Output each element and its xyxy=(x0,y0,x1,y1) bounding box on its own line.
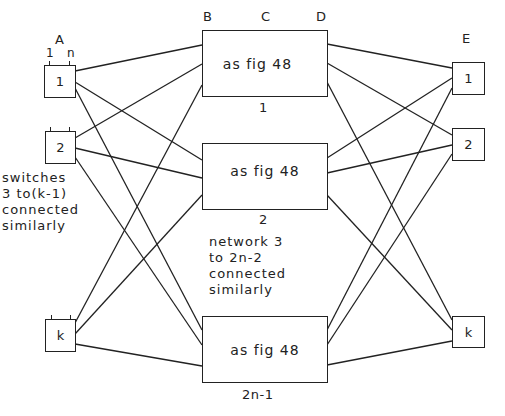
switch-label: 2 xyxy=(56,140,64,155)
left-note: switches 3 to(k-1) connected similarly xyxy=(2,170,79,234)
note-line: similarly xyxy=(209,282,273,297)
network-caption-1: 1 xyxy=(259,100,268,115)
network-text: as fig 48 xyxy=(230,163,299,179)
left-switch-1: 1 xyxy=(44,65,76,98)
note-line: 3 to(k-1) xyxy=(2,186,67,201)
note-line: connected xyxy=(2,202,79,217)
middle-note: network 3 to 2n-2 connected similarly xyxy=(209,234,286,298)
middle-network-2: as fig 48 xyxy=(202,143,328,210)
middle-network-2n-1: as fig 48 xyxy=(202,316,328,383)
stage-label-d: D xyxy=(316,9,327,24)
stage-label-e: E xyxy=(462,31,471,46)
note-line: switches xyxy=(2,170,66,185)
switch-label: k xyxy=(57,328,65,343)
network-text: as fig 48 xyxy=(230,342,299,358)
switch-label: 1 xyxy=(464,71,472,86)
network-caption-2: 2 xyxy=(259,212,268,227)
note-line: to 2n-2 xyxy=(209,250,263,265)
stage-label-c: C xyxy=(261,9,271,24)
left-switch-2: 2 xyxy=(45,131,76,164)
middle-network-1: as fig 48 xyxy=(202,30,328,97)
right-switch-2: 2 xyxy=(452,128,485,161)
switch-label: 1 xyxy=(56,74,64,89)
note-line: connected xyxy=(209,266,286,281)
right-switch-1: 1 xyxy=(452,62,485,95)
pin-label-last: n xyxy=(67,46,75,60)
switch-label: 2 xyxy=(464,137,472,152)
note-line: similarly xyxy=(2,218,66,233)
note-line: network 3 xyxy=(209,234,283,249)
stage-label-a: A xyxy=(55,32,64,47)
network-caption-2n-1: 2n-1 xyxy=(242,387,273,402)
switch-label: k xyxy=(465,325,473,340)
network-text: as fig 48 xyxy=(223,56,292,72)
right-switch-k: k xyxy=(452,316,485,348)
pin-label-first: 1 xyxy=(46,46,54,60)
stage-label-b: B xyxy=(203,9,212,24)
left-switch-k: k xyxy=(45,319,76,352)
